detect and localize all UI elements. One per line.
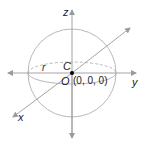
y-axis-label: y xyxy=(131,76,139,88)
radius-label: r xyxy=(42,62,46,73)
sphere-diagram: z y x r C O (0, 0, 0) xyxy=(0,0,150,147)
origin-coords-label: (0, 0, 0) xyxy=(73,75,107,86)
center-label: C xyxy=(63,60,71,72)
origin-label: O xyxy=(61,75,70,87)
x-axis-label: x xyxy=(17,111,24,123)
x-axis-neg xyxy=(72,28,130,73)
z-axis-label: z xyxy=(62,6,69,18)
